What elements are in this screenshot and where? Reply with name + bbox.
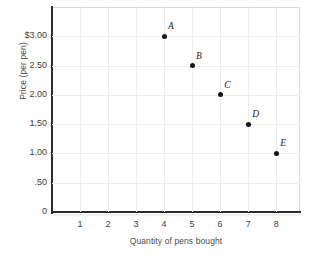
scatter-chart-figure: Price (per pen) Quantity of pens bought … <box>0 0 312 257</box>
gridline-horizontal <box>52 153 300 154</box>
x-tick-label: 1 <box>70 219 90 229</box>
gridline-vertical <box>192 7 193 212</box>
x-tick-label: 4 <box>154 219 174 229</box>
gridline-vertical <box>220 7 221 212</box>
y-tick-label: 1.50 <box>29 118 47 128</box>
gridline-horizontal <box>52 66 300 67</box>
y-tick-label: .50 <box>34 177 47 187</box>
x-tick-label: 3 <box>126 219 146 229</box>
x-tick-label: 7 <box>238 219 258 229</box>
y-axis-title: Price (per pen) <box>18 6 28 136</box>
x-tick-label: 5 <box>182 219 202 229</box>
gridline-vertical <box>136 7 137 212</box>
data-point-label: E <box>280 138 286 148</box>
data-point-label: A <box>168 21 174 31</box>
data-point <box>162 34 167 39</box>
data-point <box>190 63 195 68</box>
data-point <box>274 151 279 156</box>
y-tick-label: 2.00 <box>29 89 47 99</box>
y-tick-label: 0 <box>42 206 47 216</box>
y-tick-label: $3.00 <box>24 30 47 40</box>
gridline-horizontal <box>52 183 300 184</box>
gridline-horizontal <box>52 36 300 37</box>
gridline-vertical <box>276 7 277 212</box>
x-axis-title: Quantity of pens bought <box>52 236 300 246</box>
data-point-label: D <box>252 109 259 119</box>
axis-shadow <box>53 214 301 217</box>
gridline-vertical <box>80 7 81 212</box>
plot-area <box>52 7 300 212</box>
y-tick-label: 2.50 <box>29 60 47 70</box>
x-tick-label: 2 <box>98 219 118 229</box>
data-point-label: C <box>224 80 230 90</box>
gridline-horizontal <box>52 124 300 125</box>
data-point <box>246 122 251 127</box>
x-tick-label: 8 <box>266 219 286 229</box>
data-point-label: B <box>196 51 202 61</box>
x-axis-line <box>51 211 301 213</box>
gridline-vertical <box>108 7 109 212</box>
y-tick-label: 1.00 <box>29 147 47 157</box>
gridline-horizontal <box>52 95 300 96</box>
x-tick-label: 6 <box>210 219 230 229</box>
gridline-vertical <box>248 7 249 212</box>
